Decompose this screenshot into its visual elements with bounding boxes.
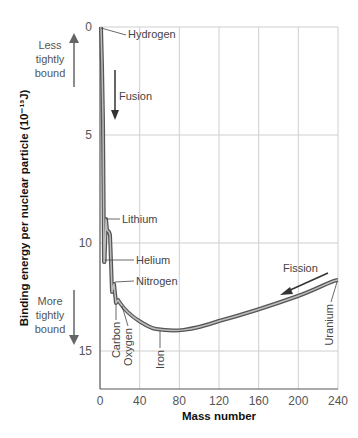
bound-label: bound bbox=[35, 67, 66, 79]
x-tick: 240 bbox=[328, 394, 348, 408]
x-tick: 200 bbox=[288, 394, 308, 408]
y-tick-labels: 0 5 10 15 bbox=[79, 20, 93, 358]
y-tick: 5 bbox=[85, 128, 92, 142]
helium-label: Helium bbox=[136, 254, 170, 266]
hydrogen-label: Hydrogen bbox=[128, 28, 176, 40]
fusion-arrow-icon bbox=[111, 70, 119, 120]
x-tick: 120 bbox=[209, 394, 229, 408]
nitrogen-label: Nitrogen bbox=[136, 275, 178, 287]
fusion-label: Fusion bbox=[119, 90, 152, 102]
carbon-label: Carbon bbox=[110, 322, 122, 358]
y-tick: 10 bbox=[79, 236, 93, 250]
less-tightly-bound-indicator: Less tightly bound bbox=[35, 33, 79, 87]
down-arrow-icon bbox=[69, 335, 79, 345]
x-tick: 40 bbox=[133, 394, 147, 408]
bound-label: bound bbox=[35, 323, 66, 335]
x-axis-title: Mass number bbox=[182, 410, 257, 422]
x-tick: 160 bbox=[249, 394, 269, 408]
grid bbox=[100, 27, 338, 389]
uranium-label: Uranium bbox=[323, 304, 335, 346]
fission-label: Fission bbox=[283, 262, 318, 274]
more-label: More bbox=[37, 295, 62, 307]
iron-label: Iron bbox=[154, 350, 166, 369]
up-arrow-icon bbox=[69, 33, 79, 43]
binding-energy-chart: 0 5 10 15 0 40 80 120 160 200 240 Mass n… bbox=[0, 0, 358, 438]
x-tick: 80 bbox=[173, 394, 187, 408]
oxygen-label: Oxygen bbox=[122, 328, 134, 366]
x-tick-labels: 0 40 80 120 160 200 240 bbox=[97, 394, 349, 408]
tightly-label: tightly bbox=[36, 53, 65, 65]
y-tick: 0 bbox=[85, 20, 92, 34]
lithium-label: Lithium bbox=[122, 213, 157, 225]
x-tick: 0 bbox=[97, 394, 104, 408]
less-label: Less bbox=[38, 39, 62, 51]
more-tightly-bound-indicator: More tightly bound bbox=[35, 290, 79, 345]
y-axis-title: Binding energy per nuclear particle (10⁻… bbox=[18, 89, 30, 326]
tightly-label: tightly bbox=[36, 309, 65, 321]
y-tick: 15 bbox=[79, 344, 93, 358]
